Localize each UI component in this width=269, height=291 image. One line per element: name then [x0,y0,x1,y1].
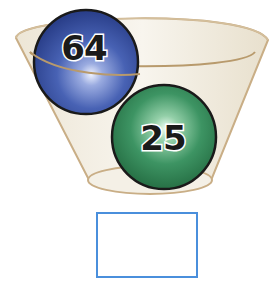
answer-input-box[interactable] [96,212,198,278]
number-ball-25: 25 [112,85,216,189]
number-ball-64: 64 [34,10,138,114]
ball-label: 64 [61,28,107,68]
ball-label: 25 [140,118,185,158]
